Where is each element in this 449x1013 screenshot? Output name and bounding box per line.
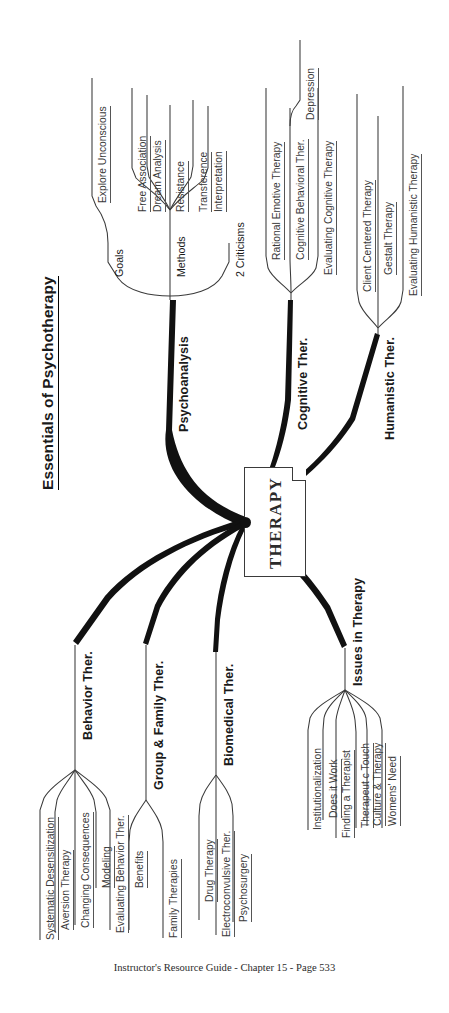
branch-label-cognitive-ther[interactable]: Cognitive Ther.	[297, 338, 310, 430]
leaf-label-culture-therapy[interactable]: Culture & Therapy	[373, 743, 386, 826]
center-hub-dot	[240, 517, 251, 528]
leaf-label-benefits[interactable]: Benefits	[135, 851, 148, 888]
leaf-label-psychosurgery[interactable]: Psychosurgery	[239, 854, 252, 922]
leaf-label-evaluating-humanistic-therapy[interactable]: Evaluating Humanistic Therapy	[409, 154, 422, 296]
center-node-therapy[interactable]: THERAPY	[244, 467, 306, 577]
mindmap-canvas: THERAPY Essentials of Psychotherapy Psyc…	[0, 0, 449, 1013]
leaf-label-transference[interactable]: Transference	[199, 152, 212, 212]
wire-grp-family	[146, 800, 163, 938]
node-label-methods[interactable]: Methods	[176, 236, 187, 277]
leaf-label-systematic-desensitization[interactable]: Systematic Desensitization	[46, 817, 59, 940]
leaf-label-interpretation[interactable]: Interpretation	[214, 151, 227, 212]
leaf-label-drug-therapy[interactable]: Drug Therapy	[205, 839, 218, 902]
leaf-label-aversion-therapy[interactable]: Aversion Therapy	[61, 850, 74, 930]
branch-label-group-family-ther[interactable]: Group & Family Ther.	[153, 661, 166, 790]
leaf-label-modeling[interactable]: Modeling	[102, 846, 115, 888]
leaf-label-explore-unconscious[interactable]: Explore Unconscious	[98, 106, 111, 203]
leaf-label-evaluating-behavior-ther[interactable]: Evaluating Behavior Ther.	[116, 815, 129, 933]
leaf-label-evaluating-cognitive-therapy[interactable]: Evaluating Cognitive Therapy	[324, 141, 337, 275]
center-node-label-wrap: THERAPY	[245, 468, 307, 578]
page-title: Essentials of Psychotherapy	[40, 276, 59, 490]
leaf-label-gestalt-therapy[interactable]: Gestalt Therapy	[384, 202, 397, 275]
wire-cbt-depression	[290, 40, 300, 126]
branch-label-behavior-ther[interactable]: Behavior Ther.	[82, 651, 95, 740]
branch-label-humanistic-ther[interactable]: Humanistic Ther.	[384, 337, 397, 440]
leaf-label-changing-consequences[interactable]: Changing Consequences	[81, 812, 94, 928]
leaf-label-electroconvulsive-ther[interactable]: Electroconvulsive Ther.	[222, 831, 235, 937]
leaf-label-client-centered-therapy[interactable]: Client Centered Therapy	[363, 180, 376, 292]
leaf-label-family-therapies[interactable]: Family Therapies	[169, 859, 182, 938]
leaf-label-rational-emotive-therapy[interactable]: Rational Emotive Therapy	[272, 142, 285, 260]
center-node-label: THERAPY	[266, 477, 286, 569]
leaf-label-dream-analysis[interactable]: Dream Analysis	[153, 140, 166, 212]
wire-cog-cbt	[290, 108, 291, 293]
branch-label-psychoanalysis[interactable]: Psychoanalysis	[178, 336, 191, 432]
page-footer: Instructor's Resource Guide - Chapter 15…	[0, 962, 449, 973]
node-label-goals[interactable]: Goals	[114, 249, 125, 277]
leaf-label-depression[interactable]: Depression	[306, 68, 319, 120]
leaf-label-free-association[interactable]: Free Association	[138, 136, 151, 212]
leaf-label-finding-a-therapist[interactable]: Finding a Therapist	[342, 750, 355, 838]
leaf-label-resistance[interactable]: Resistance	[176, 161, 189, 212]
node-label-2-criticisms[interactable]: 2 Criticisms	[235, 222, 246, 277]
branch-label-biomedical-ther[interactable]: Biomedical Ther.	[223, 664, 236, 766]
branch-label-issues-in-therapy[interactable]: Issues in Therapy	[352, 578, 365, 686]
leaf-label-cognitive-behavioral-ther[interactable]: Cognitive Behavioral Ther.	[296, 139, 309, 260]
leaf-label-does-it-work[interactable]: Does it Work	[329, 759, 342, 818]
leaf-label-institutionalization[interactable]: Institutionalization	[313, 748, 323, 830]
leaf-label-womens-need[interactable]: Womens' Need	[388, 756, 401, 826]
